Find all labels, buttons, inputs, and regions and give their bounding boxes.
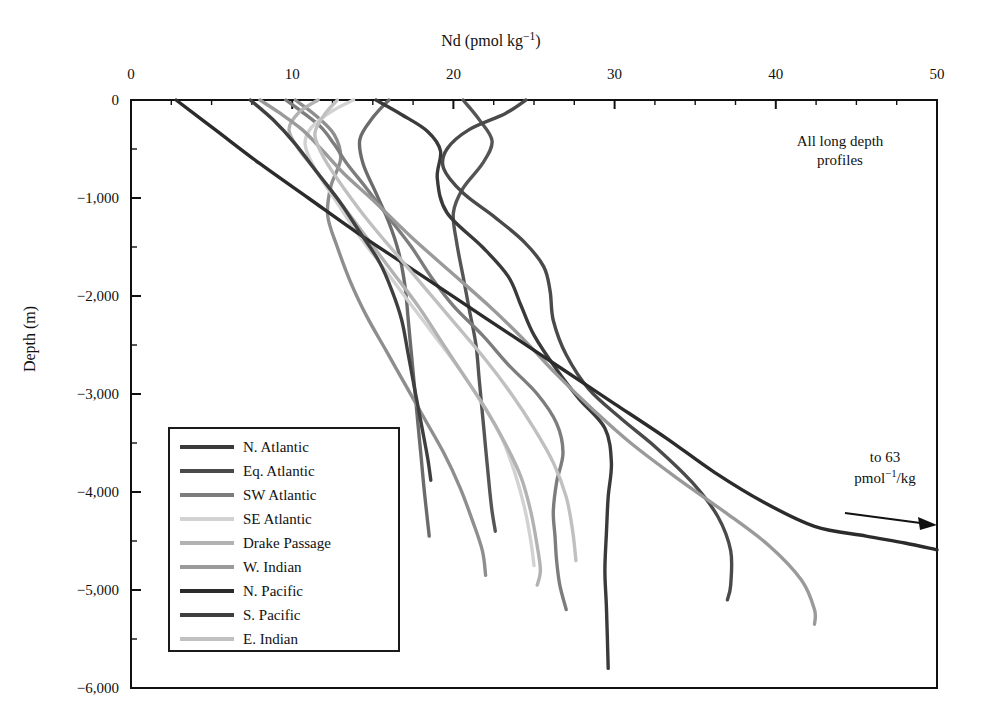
- note-all-long-depth-profiles: All long depth profiles: [745, 132, 935, 170]
- legend-item-s-pacific[interactable]: S. Pacific: [180, 603, 392, 627]
- curve-n-atlantic: [376, 100, 611, 668]
- note-to63-line2: pmol−1/kg: [820, 467, 950, 488]
- legend-item-e-indian[interactable]: E. Indian: [180, 627, 392, 651]
- legend-swatch: [180, 541, 234, 545]
- legend-swatch: [180, 637, 234, 641]
- legend-swatch: [180, 493, 234, 497]
- legend-item-se-atlantic[interactable]: SE Atlantic: [180, 507, 392, 531]
- legend-label: S. Pacific: [243, 607, 301, 624]
- legend-label: Eq. Atlantic: [243, 463, 315, 480]
- note-to63-pre: pmol: [854, 470, 885, 486]
- legend-label: SW Atlantic: [243, 487, 316, 504]
- legend-label: N. Pacific: [243, 583, 303, 600]
- note-all-long-line2: profiles: [745, 151, 935, 170]
- legend-swatch: [180, 469, 234, 473]
- legend-label: E. Indian: [243, 631, 298, 648]
- legend-item-n-atlantic[interactable]: N. Atlantic: [180, 435, 392, 459]
- legend-list: N. AtlanticEq. AtlanticSW AtlanticSE Atl…: [180, 435, 392, 651]
- legend-swatch: [180, 517, 234, 521]
- legend-item-n-pacific[interactable]: N. Pacific: [180, 579, 392, 603]
- legend-label: SE Atlantic: [243, 511, 312, 528]
- note-to63-superscript: −1: [885, 467, 897, 479]
- legend-label: W. Indian: [243, 559, 302, 576]
- legend-swatch: [180, 613, 234, 617]
- note-to63-line1: to 63: [820, 448, 950, 467]
- to63-arrow-group: [845, 513, 937, 530]
- curve-eq-atlantic: [442, 100, 731, 600]
- legend-item-w-indian[interactable]: W. Indian: [180, 555, 392, 579]
- note-all-long-line1: All long depth: [745, 132, 935, 151]
- curve-unlabeled-deep-1: [453, 100, 495, 531]
- note-to-63: to 63 pmol−1/kg: [820, 448, 950, 488]
- legend-box: N. AtlanticEq. AtlanticSW AtlanticSE Atl…: [168, 427, 400, 652]
- to63-arrow-shaft: [845, 513, 928, 524]
- legend-swatch: [180, 565, 234, 569]
- figure-container: Nd (pmol kg−1) Depth (m) 01020304050 0−1…: [0, 0, 982, 725]
- legend-item-sw-atlantic[interactable]: SW Atlantic: [180, 483, 392, 507]
- note-to63-post: /kg: [897, 470, 916, 486]
- legend-swatch: [180, 589, 234, 593]
- to63-arrow-head: [918, 517, 937, 530]
- plot-area: [0, 0, 982, 725]
- legend-swatch: [180, 445, 234, 449]
- legend-label: Drake Passage: [243, 535, 331, 552]
- legend-label: N. Atlantic: [243, 439, 309, 456]
- legend-item-eq-atlantic[interactable]: Eq. Atlantic: [180, 459, 392, 483]
- legend-item-drake-passage[interactable]: Drake Passage: [180, 531, 392, 555]
